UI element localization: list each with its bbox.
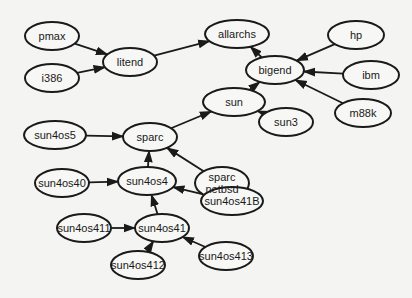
node-hp [328,21,384,49]
edge-sun4os413-to-sun4os41 [183,237,206,247]
node-sparc [123,123,177,151]
edge-sun4os412-to-sun4os41 [147,241,154,251]
node-sun4os41 [135,214,189,242]
node-sun4os5 [24,121,86,149]
node-sun [203,88,265,116]
node-sun3 [259,108,313,136]
node-pmax [25,22,79,50]
node-sun4os412 [111,251,165,279]
edge-sun-to-bigend [250,82,260,90]
edge-sparc_netbsd-to-sparc [167,148,204,171]
node-m88k [335,99,391,127]
edge-pmax-to-litend [75,44,108,55]
edge-sun4os4-to-sparc [148,151,149,167]
architecture-dependency-graph [0,0,412,298]
edge-bigend-to-allarchs [250,47,261,58]
node-allarchs [205,20,269,48]
node-litend [103,48,157,76]
edge-hp-to-bigend [297,44,335,61]
node-sun4os413 [199,242,253,270]
edge-litend-to-allarchs [154,41,209,56]
edge-m88k-to-bigend [295,80,343,103]
edge-sun4os40-to-sun4os4 [89,182,118,183]
edge-sun4os5-to-sparc [86,136,123,137]
node-sun4os411 [57,214,111,242]
node-bigend [246,56,304,84]
edge-sun4os41-to-sun4os4 [151,195,157,214]
node-sun4os4 [118,167,176,195]
node-sun4os40 [35,169,89,197]
node-ibm [343,61,399,89]
node-i386 [25,64,79,92]
edge-ibm-to-bigend [304,72,343,74]
nodes-layer [24,20,399,279]
node-sun4os41B [201,187,263,215]
edge-sparc-to-sun [171,111,211,128]
edge-i386-to-litend [77,67,105,73]
